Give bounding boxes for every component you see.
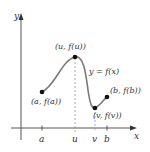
point-v (93, 106, 98, 111)
point-a (40, 90, 45, 95)
label-point-u: (u, f(u)) (55, 42, 86, 51)
point-b (105, 95, 110, 100)
tick-label-a: a (39, 134, 44, 144)
graph-diagram: y x (u, f(u)) (a, f(a)) (v, f(v)) (b, f(… (0, 0, 150, 152)
x-axis-arrow-icon (130, 126, 137, 131)
point-u (73, 55, 78, 60)
label-point-v: (v, f(v)) (93, 111, 122, 120)
y-axis-arrow-icon (19, 13, 24, 20)
label-point-a: (a, f(a)) (31, 97, 61, 106)
curve-label: y = f(x) (88, 67, 119, 76)
label-point-b: (b, f(b)) (110, 86, 141, 95)
tick-label-v: v (92, 134, 97, 144)
y-axis-label: y (13, 11, 20, 21)
tick-label-b: b (104, 134, 110, 144)
tick-label-u: u (72, 134, 78, 144)
x-axis-label: x (134, 131, 139, 141)
